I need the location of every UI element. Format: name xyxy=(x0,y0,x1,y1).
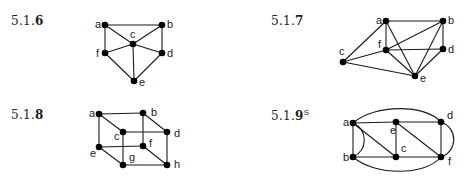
vertex-c xyxy=(120,129,127,136)
vertex-a xyxy=(383,18,390,25)
vertex-label-e: e xyxy=(390,124,396,136)
graph-diagrams: abcfdeabfdceabcdefghaedbcf xyxy=(0,0,466,183)
vertex-b xyxy=(159,22,166,29)
vertex-label-f: f xyxy=(448,155,452,167)
vertex-label-e: e xyxy=(139,76,145,88)
edge-f-e xyxy=(105,53,134,81)
vertex-label-h: h xyxy=(174,158,180,170)
vertex-a xyxy=(96,111,103,118)
vertex-label-e: e xyxy=(90,147,96,159)
vertex-d xyxy=(164,129,171,136)
edge-a-e xyxy=(386,21,415,76)
vertex-c xyxy=(130,41,137,48)
vertex-label-b: b xyxy=(343,151,349,163)
vertex-e xyxy=(412,73,419,80)
vertex-label-b: b xyxy=(448,14,454,26)
vertex-b xyxy=(140,110,147,117)
edge-c-d xyxy=(133,44,162,53)
vertex-label-d: d xyxy=(447,109,453,121)
vertex-label-g: g xyxy=(129,151,135,163)
edge-b-f xyxy=(386,21,443,50)
vertex-h xyxy=(164,162,171,169)
vertex-label-a: a xyxy=(343,116,350,128)
edge-c-e xyxy=(133,44,134,81)
vertex-label-c: c xyxy=(401,142,407,154)
vertex-f xyxy=(140,143,147,150)
vertex-b xyxy=(440,18,447,25)
edge-f-e xyxy=(386,50,415,76)
vertex-label-f: f xyxy=(378,38,382,50)
vertex-label-a: a xyxy=(89,107,96,119)
vertex-e xyxy=(131,78,138,85)
vertex-f xyxy=(438,154,445,161)
vertex-d xyxy=(159,50,166,57)
graph-5-1-6: abcfde xyxy=(95,18,173,88)
vertex-label-b: b xyxy=(167,18,173,30)
vertex-label-f: f xyxy=(149,137,153,149)
vertex-b xyxy=(350,154,357,161)
vertex-label-b: b xyxy=(151,106,157,118)
vertex-label-d: d xyxy=(174,127,180,139)
vertex-c xyxy=(393,154,400,161)
graph-5-1-9s: aedbcf xyxy=(343,109,454,172)
graph-5-1-8: abcdefgh xyxy=(89,106,180,170)
vertex-f xyxy=(383,47,390,54)
vertex-label-d: d xyxy=(167,47,173,59)
edge-b-e xyxy=(415,21,443,76)
vertex-d xyxy=(438,119,445,126)
vertex-f xyxy=(102,50,109,57)
vertex-e xyxy=(96,144,103,151)
edge-e-g xyxy=(99,147,123,165)
vertex-a xyxy=(102,22,109,29)
edge-e-f xyxy=(99,146,143,147)
edge-a-e xyxy=(353,122,396,123)
vertex-label-f: f xyxy=(96,47,100,59)
edge-b-c xyxy=(133,25,162,44)
edge-c-f xyxy=(105,44,133,53)
edge-a-b xyxy=(99,113,143,114)
vertex-g xyxy=(120,162,127,169)
curved-edge-d-f xyxy=(441,122,454,157)
edge-c-e xyxy=(343,62,415,76)
vertex-label-d: d xyxy=(448,43,454,55)
edge-f-d xyxy=(386,49,443,50)
edge-f-h xyxy=(143,146,167,165)
graph-5-1-7: abfdce xyxy=(339,14,454,84)
vertex-a xyxy=(350,120,357,127)
vertex-label-a: a xyxy=(95,18,102,30)
vertex-label-e: e xyxy=(420,72,426,84)
edge-a-c xyxy=(105,25,133,44)
vertex-label-c: c xyxy=(114,130,120,142)
vertex-label-c: c xyxy=(339,45,345,57)
vertex-label-c: c xyxy=(130,28,136,40)
vertex-c xyxy=(340,59,347,66)
vertex-d xyxy=(440,46,447,53)
vertex-label-a: a xyxy=(376,14,383,26)
